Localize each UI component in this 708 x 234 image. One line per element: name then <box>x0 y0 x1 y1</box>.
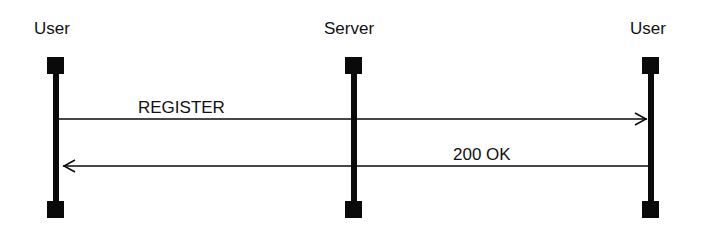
message-arrow-200-ok <box>63 160 648 172</box>
message-arrows <box>0 0 708 234</box>
message-label-200-ok: 200 OK <box>453 145 511 165</box>
message-label-register: REGISTER <box>138 98 225 118</box>
